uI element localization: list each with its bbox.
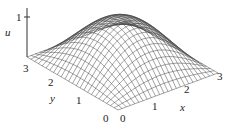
u-axis-label: u [5,26,11,38]
u-tick-label-1: 1 [16,11,22,23]
surface-mesh [27,14,218,110]
x-axis-label: x [179,101,185,113]
y-tick-0: 0 [103,112,109,124]
y-tick-2: 2 [48,76,54,88]
x-tick-0: 0 [120,112,126,124]
surface-plot: 1 u 3 2 y 1 0 0 1 x 2 3 [0,0,235,128]
y-tick-3: 3 [23,62,29,74]
x-tick-1: 1 [152,100,158,112]
y-axis-label: y [49,92,55,104]
x-tick-2: 2 [184,83,190,95]
x-tick-3: 3 [217,70,223,82]
y-tick-1: 1 [76,94,82,106]
